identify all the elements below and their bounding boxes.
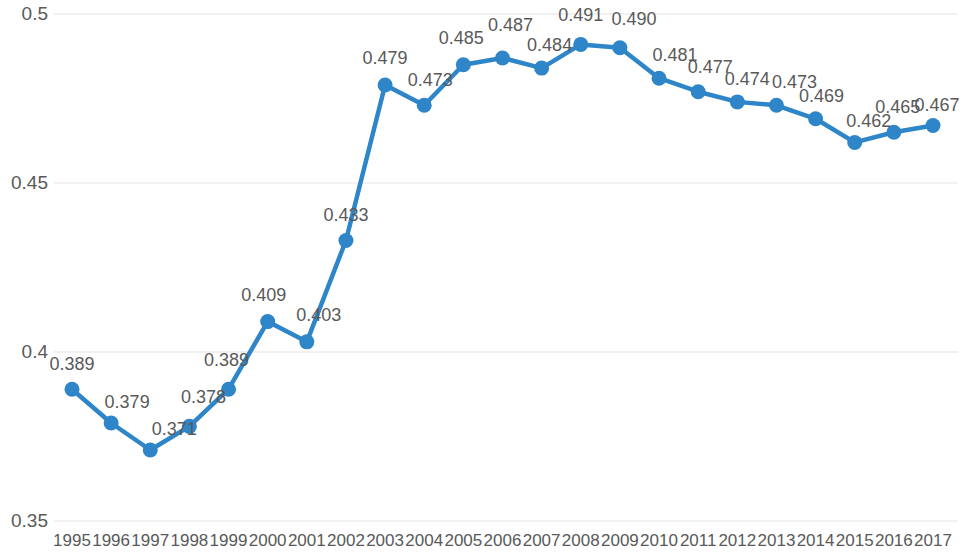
data-point-value-label: 0.403	[296, 305, 341, 326]
x-axis-tick-label: 2011	[680, 531, 717, 551]
data-point-marker[interactable]	[652, 71, 667, 86]
x-axis-tick-label: 2002	[327, 531, 365, 551]
data-point-marker[interactable]	[260, 314, 275, 329]
data-point-value-label: 0.409	[241, 285, 286, 306]
data-point-marker[interactable]	[338, 233, 353, 248]
x-axis-tick-label: 1996	[92, 531, 130, 551]
x-axis-tick-label: 2015	[836, 531, 874, 551]
data-point-value-label: 0.469	[799, 86, 844, 107]
data-point-marker[interactable]	[808, 111, 823, 126]
x-axis-tick-label: 2010	[640, 531, 678, 551]
data-point-marker[interactable]	[573, 37, 588, 52]
data-point-marker[interactable]	[456, 57, 471, 72]
data-point-marker[interactable]	[691, 84, 706, 99]
x-axis-tick-label: 2014	[797, 531, 835, 551]
x-axis-tick-label: 1995	[53, 531, 91, 551]
y-axis-tick-label: 0.35	[0, 510, 48, 532]
x-axis-tick-label: 2005	[444, 531, 482, 551]
x-axis-tick-label: 1997	[131, 531, 169, 551]
x-axis-tick-label: 1998	[170, 531, 208, 551]
data-point-marker[interactable]	[143, 443, 158, 458]
x-axis-tick-label: 2008	[562, 531, 600, 551]
data-point-marker[interactable]	[534, 61, 549, 76]
x-axis-tick-label: 2017	[914, 531, 952, 551]
data-point-marker[interactable]	[612, 40, 627, 55]
x-axis-tick-label: 2004	[405, 531, 443, 551]
x-axis-tick-label: 2012	[718, 531, 756, 551]
x-axis-tick-label: 2013	[758, 531, 796, 551]
x-axis-tick-label: 2009	[601, 531, 639, 551]
y-axis-tick-label: 0.45	[0, 172, 48, 194]
data-point-value-label: 0.474	[725, 69, 770, 90]
data-point-value-label: 0.485	[439, 28, 484, 49]
data-point-marker[interactable]	[378, 77, 393, 92]
data-point-value-label: 0.433	[323, 205, 368, 226]
line-chart: 0.350.40.450.5 1995199619971998199920002…	[0, 0, 962, 553]
data-point-value-label: 0.473	[408, 70, 453, 91]
data-point-marker[interactable]	[417, 98, 432, 113]
data-point-marker[interactable]	[847, 135, 862, 150]
data-point-value-label: 0.487	[488, 15, 533, 36]
x-axis-tick-label: 2003	[366, 531, 404, 551]
data-point-value-label: 0.389	[49, 354, 94, 375]
data-point-value-label: 0.467	[914, 95, 959, 116]
data-point-marker[interactable]	[299, 334, 314, 349]
chart-canvas	[0, 0, 962, 553]
x-axis-tick-label: 1999	[210, 531, 248, 551]
data-point-marker[interactable]	[926, 118, 941, 133]
data-point-marker[interactable]	[769, 98, 784, 113]
x-axis-tick-label: 2007	[523, 531, 561, 551]
data-point-marker[interactable]	[730, 94, 745, 109]
data-point-value-label: 0.490	[611, 9, 656, 30]
data-point-marker[interactable]	[495, 50, 510, 65]
y-axis-tick-label: 0.4	[0, 341, 48, 363]
data-point-value-label: 0.389	[204, 350, 249, 371]
data-point-value-label: 0.371	[152, 419, 197, 440]
data-point-value-label: 0.378	[181, 387, 226, 408]
data-point-marker[interactable]	[65, 382, 80, 397]
data-point-value-label: 0.379	[105, 392, 150, 413]
x-axis-tick-label: 2016	[875, 531, 913, 551]
data-point-marker[interactable]	[104, 415, 119, 430]
x-axis-tick-label: 2000	[249, 531, 287, 551]
y-axis-tick-label: 0.5	[0, 3, 48, 25]
data-point-value-label: 0.479	[363, 48, 408, 69]
data-point-value-label: 0.491	[558, 5, 603, 26]
x-axis-tick-label: 2006	[484, 531, 522, 551]
x-axis-tick-label: 2001	[288, 531, 326, 551]
data-point-value-label: 0.484	[527, 35, 572, 56]
